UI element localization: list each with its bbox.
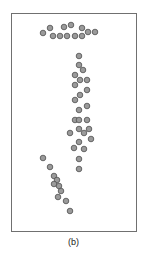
dot <box>81 146 87 152</box>
dot <box>84 103 90 109</box>
dot <box>68 22 74 28</box>
dot <box>81 130 87 136</box>
dot <box>76 166 82 172</box>
dot <box>55 194 61 200</box>
dot <box>61 24 67 30</box>
dot <box>76 139 82 145</box>
dot <box>58 188 64 194</box>
dot <box>76 107 82 113</box>
dot <box>40 155 46 161</box>
dot <box>79 25 85 31</box>
dot <box>79 33 85 39</box>
dot <box>76 156 82 162</box>
dot <box>88 136 94 142</box>
dot <box>72 82 78 88</box>
dot <box>76 53 82 59</box>
dot <box>57 33 63 39</box>
dot <box>67 130 73 136</box>
dot <box>47 25 53 31</box>
dot <box>77 77 83 83</box>
dot-scatter <box>0 0 147 264</box>
dot <box>84 77 90 83</box>
dot <box>85 29 91 35</box>
dot <box>84 87 90 93</box>
dot <box>72 97 78 103</box>
dot <box>72 72 78 78</box>
figure-caption: (b) <box>0 237 147 247</box>
dot <box>67 208 73 214</box>
dot <box>92 29 98 35</box>
dot <box>80 67 86 73</box>
dot <box>77 92 83 98</box>
dot <box>72 33 78 39</box>
dot <box>40 30 46 36</box>
dot <box>76 62 82 68</box>
dot <box>63 198 69 204</box>
dot <box>71 145 77 151</box>
dot <box>84 117 90 123</box>
dot <box>47 164 53 170</box>
dot <box>76 126 82 132</box>
dot <box>86 126 92 132</box>
dot <box>64 33 70 39</box>
dot <box>50 33 56 39</box>
dot <box>76 117 82 123</box>
